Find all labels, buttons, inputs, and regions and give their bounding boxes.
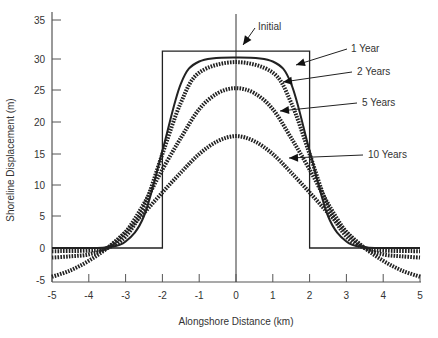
annotation-label: 1 Year	[351, 43, 380, 54]
arrowhead-icon	[243, 35, 251, 45]
y-tick-label: 35	[34, 15, 46, 26]
annotations: Initial1 Year2 Years5 Years10 Years	[243, 21, 407, 162]
y-tick-label: 5	[39, 211, 45, 222]
x-tick-label: -3	[121, 290, 130, 301]
y-tick-label: -5	[36, 275, 45, 286]
annotation-label: 5 Years	[362, 97, 395, 108]
y-tick-label: 10	[34, 180, 46, 191]
x-tick-label: 1	[270, 290, 276, 301]
x-tick-label: 2	[307, 290, 313, 301]
x-tick-label: -1	[195, 290, 204, 301]
annotation-label: Initial	[258, 21, 281, 32]
y-tick-label: 20	[34, 117, 46, 128]
x-tick-label: -4	[84, 290, 93, 301]
x-tick-label: 4	[380, 290, 386, 301]
x-tick-label: -5	[48, 290, 57, 301]
y-tick-label: 0	[39, 243, 45, 254]
x-axis-label: Alongshore Distance (km)	[178, 316, 293, 327]
annotation-arrow	[289, 155, 363, 158]
y-tick-label: 25	[34, 85, 46, 96]
annotation-label: 2 Years	[357, 66, 390, 77]
arrowhead-icon	[280, 106, 289, 114]
x-tick-label: -2	[158, 290, 167, 301]
annotation-label: 10 Years	[368, 149, 407, 160]
y-axis-label: Shoreline Displacement (m)	[5, 98, 16, 221]
shoreline-displacement-chart: -505101520253035-5-4-3-2-1012345 Initial…	[0, 0, 438, 338]
y-tick-label: 30	[34, 54, 46, 65]
x-tick-label: 5	[417, 290, 423, 301]
annotation-arrow	[283, 72, 352, 82]
y-tick-label: 15	[34, 149, 46, 160]
x-tick-label: 0	[233, 290, 239, 301]
x-tick-label: 3	[344, 290, 350, 301]
arrowhead-icon	[289, 154, 298, 162]
arrowhead-icon	[296, 58, 306, 66]
chart-canvas: -505101520253035-5-4-3-2-1012345 Initial…	[0, 0, 438, 338]
